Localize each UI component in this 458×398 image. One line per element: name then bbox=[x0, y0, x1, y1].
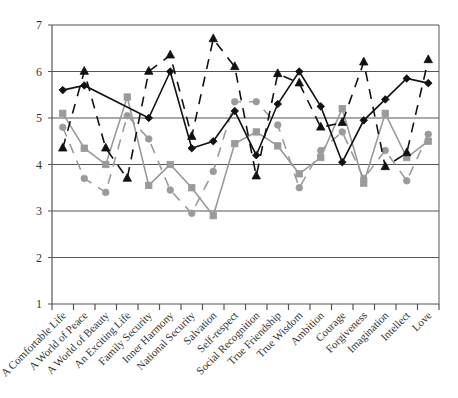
circle-marker bbox=[81, 175, 88, 182]
circle-marker bbox=[145, 136, 152, 143]
y-tick-label: 2 bbox=[36, 251, 42, 265]
diamond-marker bbox=[188, 144, 196, 152]
triangle-marker bbox=[360, 57, 368, 65]
circle-marker bbox=[403, 177, 410, 184]
diamond-marker bbox=[145, 114, 153, 122]
circle-marker bbox=[382, 147, 389, 154]
square-marker bbox=[382, 110, 388, 116]
triangle-marker bbox=[274, 69, 282, 77]
diamond-marker bbox=[252, 151, 260, 159]
y-tick-label: 6 bbox=[36, 65, 42, 79]
series-1 bbox=[59, 68, 432, 166]
square-marker bbox=[189, 185, 195, 191]
square-marker bbox=[167, 161, 173, 167]
x-axis-tick-labels: A Comfortable LifeA World of PeaceA Worl… bbox=[0, 309, 434, 379]
series-4 bbox=[59, 98, 431, 216]
triangle-marker bbox=[59, 143, 67, 151]
triangle-marker bbox=[209, 34, 217, 42]
circle-marker bbox=[253, 98, 260, 105]
data-series bbox=[59, 34, 433, 219]
series-line bbox=[63, 97, 429, 216]
circle-marker bbox=[188, 210, 195, 217]
triangle-marker bbox=[123, 173, 131, 181]
square-marker bbox=[296, 171, 302, 177]
circle-marker bbox=[167, 187, 174, 194]
square-marker bbox=[146, 182, 152, 188]
triangle-marker bbox=[381, 162, 389, 170]
circle-marker bbox=[59, 124, 66, 131]
series-3 bbox=[60, 94, 432, 219]
circle-marker bbox=[274, 122, 281, 129]
triangle-marker bbox=[145, 67, 153, 75]
circle-marker bbox=[102, 189, 109, 196]
circle-marker bbox=[360, 175, 367, 182]
triangle-marker bbox=[317, 122, 325, 130]
y-tick-label: 5 bbox=[36, 111, 42, 125]
square-marker bbox=[103, 161, 109, 167]
triangle-marker bbox=[80, 67, 88, 75]
line-chart: 1234567 A Comfortable LifeA World of Pea… bbox=[0, 0, 458, 398]
circle-marker bbox=[124, 112, 131, 119]
circle-marker bbox=[425, 131, 432, 138]
square-marker bbox=[210, 212, 216, 218]
chart-canvas: 1234567 A Comfortable LifeA World of Pea… bbox=[0, 0, 458, 398]
square-marker bbox=[253, 129, 259, 135]
square-marker bbox=[232, 140, 238, 146]
circle-marker bbox=[317, 147, 324, 154]
y-tick-label: 1 bbox=[36, 297, 42, 311]
y-tick-label: 4 bbox=[36, 158, 42, 172]
circle-marker bbox=[210, 168, 217, 175]
square-marker bbox=[81, 145, 87, 151]
triangle-marker bbox=[252, 171, 260, 179]
diamond-marker bbox=[59, 86, 67, 94]
square-marker bbox=[60, 110, 66, 116]
gridlines bbox=[48, 25, 439, 258]
triangle-marker bbox=[295, 78, 303, 86]
diamond-marker bbox=[166, 68, 174, 76]
circle-marker bbox=[231, 98, 238, 105]
triangle-marker bbox=[166, 50, 174, 58]
square-marker bbox=[275, 143, 281, 149]
diamond-marker bbox=[317, 103, 325, 111]
square-marker bbox=[124, 94, 130, 100]
circle-marker bbox=[339, 129, 346, 136]
triangle-marker bbox=[102, 143, 110, 151]
circle-marker bbox=[296, 184, 303, 191]
y-axis-tick-labels: 1234567 bbox=[36, 18, 42, 311]
diamond-marker bbox=[424, 79, 432, 87]
series-line bbox=[63, 39, 429, 179]
x-tick-label: Love bbox=[409, 309, 434, 334]
y-tick-label: 7 bbox=[36, 18, 42, 32]
square-marker bbox=[318, 154, 324, 160]
y-tick-label: 3 bbox=[36, 204, 42, 218]
triangle-marker bbox=[424, 55, 432, 63]
square-marker bbox=[339, 106, 345, 112]
